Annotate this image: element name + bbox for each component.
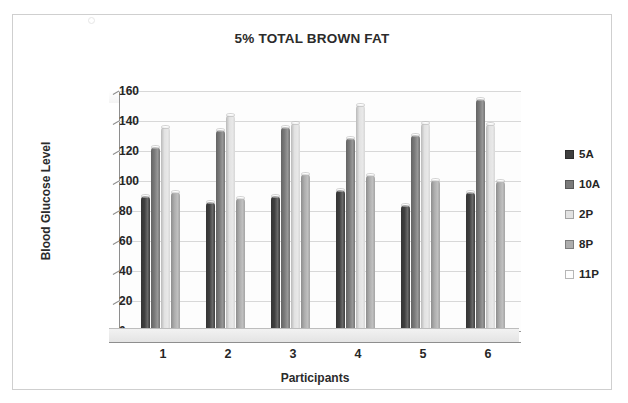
legend-item-10a[interactable]: 10A bbox=[565, 169, 627, 199]
legend-item-11p[interactable]: 11P bbox=[565, 259, 627, 289]
bar-10a-p2 bbox=[216, 130, 225, 331]
bar-8p-p5 bbox=[431, 180, 440, 332]
bar-5a-p4 bbox=[336, 190, 345, 331]
bar-5a-p5 bbox=[401, 205, 410, 331]
legend-swatch-icon bbox=[565, 240, 574, 249]
x-axis-ticks: 123456 bbox=[109, 347, 521, 365]
bar-group bbox=[141, 91, 207, 331]
legend-label: 5A bbox=[579, 148, 594, 160]
legend-swatch-icon bbox=[565, 270, 574, 279]
plot-floor bbox=[109, 328, 519, 343]
bar-8p-p4 bbox=[366, 175, 375, 331]
legend-label: 8P bbox=[579, 238, 593, 250]
bar-8p-p6 bbox=[496, 181, 505, 331]
bar-2p-p1 bbox=[161, 127, 170, 331]
x-tick-label: 4 bbox=[355, 347, 362, 361]
chart-title: 5% TOTAL BROWN FAT bbox=[13, 31, 611, 46]
legend-label: 2P bbox=[579, 208, 593, 220]
bar-2p-p5 bbox=[421, 123, 430, 332]
bar-8p-p1 bbox=[171, 192, 180, 332]
plot-area: 020406080100120140160 bbox=[109, 91, 521, 343]
bar-10a-p1 bbox=[151, 147, 160, 332]
bar-2p-p6 bbox=[486, 124, 495, 331]
bar-10a-p3 bbox=[281, 127, 290, 331]
y-axis-title: Blood Glucose Level bbox=[39, 111, 55, 291]
legend-swatch-icon bbox=[565, 210, 574, 219]
x-tick-label: 5 bbox=[420, 347, 427, 361]
bar-5a-p2 bbox=[206, 202, 215, 331]
chart-frame: 5% TOTAL BROWN FAT Blood Glucose Level 0… bbox=[12, 14, 612, 390]
bar-group bbox=[271, 91, 337, 331]
bars-layer bbox=[119, 91, 521, 331]
x-axis-title: Participants bbox=[109, 371, 521, 385]
x-tick-label: 2 bbox=[225, 347, 232, 361]
bar-group bbox=[401, 91, 467, 331]
legend-label: 10A bbox=[579, 178, 600, 190]
bar-10a-p6 bbox=[476, 99, 485, 332]
bar-5a-p1 bbox=[141, 196, 150, 331]
legend-item-2p[interactable]: 2P bbox=[565, 199, 627, 229]
bar-5a-p3 bbox=[271, 196, 280, 331]
bar-group bbox=[466, 91, 532, 331]
bar-2p-p2 bbox=[226, 115, 235, 331]
x-axis-line bbox=[109, 342, 521, 343]
bar-5a-p6 bbox=[466, 192, 475, 332]
legend-label: 11P bbox=[579, 268, 599, 280]
x-tick-label: 3 bbox=[290, 347, 297, 361]
x-tick-label: 6 bbox=[485, 347, 492, 361]
bar-10a-p4 bbox=[346, 138, 355, 332]
bar-group bbox=[206, 91, 272, 331]
bar-8p-p3 bbox=[301, 174, 310, 332]
chart-legend: 5A10A2P8P11P bbox=[565, 139, 627, 289]
legend-item-5a[interactable]: 5A bbox=[565, 139, 627, 169]
bar-8p-p2 bbox=[236, 198, 245, 332]
bar-group bbox=[336, 91, 402, 331]
bar-10a-p5 bbox=[411, 135, 420, 332]
bar-2p-p3 bbox=[291, 123, 300, 332]
scan-artifact-speck bbox=[88, 17, 95, 24]
bar-2p-p4 bbox=[356, 105, 365, 332]
legend-item-8p[interactable]: 8P bbox=[565, 229, 627, 259]
x-tick-label: 1 bbox=[160, 347, 167, 361]
legend-swatch-icon bbox=[565, 150, 574, 159]
legend-swatch-icon bbox=[565, 180, 574, 189]
